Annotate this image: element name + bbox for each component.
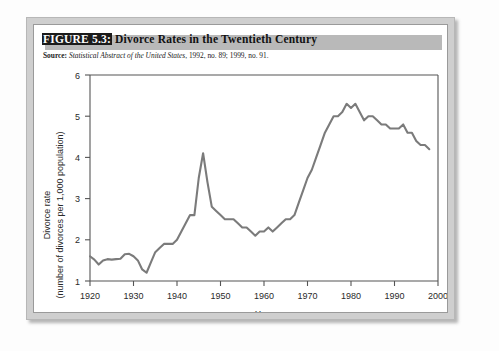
y-tick-label-5: 5: [75, 112, 80, 122]
x-axis-ticks: 1920 1930 1940 1950 1960 1970 1980 1990 …: [80, 281, 448, 301]
x-tick-label-2000: 2000: [428, 291, 448, 301]
source-title: Statistical Abstract of the United State…: [69, 51, 185, 60]
x-tick-label-1950: 1950: [210, 291, 230, 301]
figure-source: Source: Statistical Abstract of the Unit…: [43, 51, 269, 60]
x-tick-label-1990: 1990: [384, 291, 404, 301]
figure-title: FIGURE 5.3: Divorce Rates in the Twentie…: [42, 32, 439, 47]
x-tick-label-1930: 1930: [123, 291, 143, 301]
y-axis-ticks: 6 5 4 3 2 1: [75, 71, 90, 287]
figure-outer-frame: FIGURE 5.3: Divorce Rates in the Twentie…: [26, 17, 455, 320]
x-tick-label-1940: 1940: [167, 291, 187, 301]
figure-inner-box: FIGURE 5.3: Divorce Rates in the Twentie…: [33, 24, 448, 313]
y-axis-title-line1: Divorce rate: [42, 191, 52, 240]
y-tick-label-4: 4: [75, 153, 80, 163]
y-axis-title-line2: (number of divorces per 1,000 population…: [55, 131, 65, 298]
chart-plot-area: Divorce rate (number of divorces per 1,0…: [34, 65, 447, 313]
divorce-rate-series-line: [90, 104, 429, 273]
x-tick-label-1970: 1970: [297, 291, 317, 301]
source-label: Source:: [43, 51, 67, 60]
x-tick-label-1960: 1960: [254, 291, 274, 301]
y-tick-label-2: 2: [75, 235, 80, 245]
source-detail: , 1992, no. 89; 1999, no. 91.: [185, 51, 268, 60]
x-axis-title: Year: [255, 309, 273, 313]
figure-title-bar: FIGURE 5.3: Divorce Rates in the Twentie…: [42, 32, 439, 47]
divorce-rate-line-chart: Divorce rate (number of divorces per 1,0…: [34, 65, 448, 313]
y-tick-label-1: 1: [75, 277, 80, 287]
figure-number: FIGURE 5.3:: [42, 33, 112, 45]
page-root: FIGURE 5.3: Divorce Rates in the Twentie…: [0, 0, 499, 351]
y-tick-label-6: 6: [75, 71, 80, 81]
y-tick-label-3: 3: [75, 194, 80, 204]
figure-title-text: Divorce Rates in the Twentieth Century: [115, 33, 317, 45]
x-tick-label-1920: 1920: [80, 291, 100, 301]
x-tick-label-1980: 1980: [341, 291, 361, 301]
